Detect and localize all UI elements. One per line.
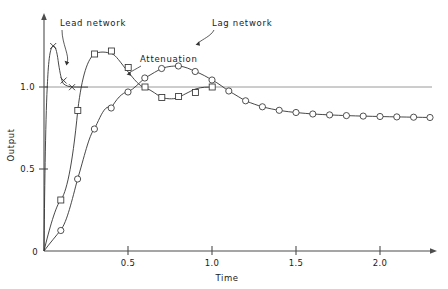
square-marker bbox=[209, 84, 215, 90]
circle-marker bbox=[58, 227, 64, 233]
circle-marker bbox=[360, 113, 366, 119]
circle-marker bbox=[125, 89, 131, 95]
square-marker bbox=[192, 90, 198, 96]
attenuation-markers bbox=[58, 48, 215, 203]
annotation-attenuation: Attenuation bbox=[127, 54, 198, 76]
x-axis-arrowhead bbox=[430, 248, 437, 254]
y-axis-title: Output bbox=[6, 128, 16, 161]
circle-marker bbox=[108, 105, 114, 111]
square-marker bbox=[75, 108, 81, 114]
step-response-chart: 1.0 0.5 0 0.5 1.0 1.5 2.0 Time Output bbox=[0, 0, 448, 289]
x-tick-label-0.5: 0.5 bbox=[121, 258, 136, 268]
lead-network-leader-arrowhead bbox=[65, 61, 70, 66]
circle-marker bbox=[159, 65, 165, 71]
lag-network-curve bbox=[44, 63, 433, 251]
x-tick-group: 0.5 1.0 1.5 2.0 bbox=[121, 246, 388, 268]
x-axis-title: Time bbox=[214, 273, 238, 283]
circle-marker bbox=[377, 113, 383, 119]
circle-marker bbox=[192, 68, 198, 74]
annotation-lead-network: Lead network bbox=[60, 18, 126, 66]
square-marker bbox=[142, 84, 148, 90]
x-tick-label-1.5: 1.5 bbox=[289, 258, 304, 268]
lag-network-leader-line bbox=[198, 30, 214, 43]
lead-network-annotation-label: Lead network bbox=[60, 18, 126, 28]
circle-marker bbox=[259, 104, 265, 110]
circle-marker bbox=[226, 88, 232, 94]
x-marker bbox=[50, 43, 56, 49]
attenuation-curve bbox=[44, 48, 215, 251]
square-marker bbox=[159, 95, 165, 101]
x-tick-label-2.0: 2.0 bbox=[373, 258, 388, 268]
circle-marker bbox=[427, 114, 433, 120]
axes-group bbox=[41, 13, 437, 254]
attenuation-annotation-label: Attenuation bbox=[140, 54, 198, 64]
circle-marker bbox=[293, 109, 299, 115]
lag-network-markers bbox=[58, 63, 433, 234]
circle-marker bbox=[75, 176, 81, 182]
square-marker bbox=[108, 48, 114, 54]
circle-marker bbox=[327, 112, 333, 118]
annotation-lag-network: Lag network bbox=[196, 18, 273, 46]
x-marker bbox=[61, 78, 67, 84]
circle-marker bbox=[209, 77, 215, 83]
circle-marker bbox=[394, 114, 400, 120]
attenuation-line bbox=[44, 52, 212, 251]
y-tick-label-1.0: 1.0 bbox=[20, 82, 35, 92]
circle-marker bbox=[142, 75, 148, 81]
y-tick-label-0: 0 bbox=[32, 247, 38, 257]
square-marker bbox=[58, 197, 64, 203]
circle-marker bbox=[411, 114, 417, 120]
square-marker bbox=[92, 51, 98, 57]
x-tick-label-1.0: 1.0 bbox=[205, 258, 220, 268]
circle-marker bbox=[243, 98, 249, 104]
y-tick-label-0.5: 0.5 bbox=[20, 164, 35, 174]
circle-marker bbox=[310, 111, 316, 117]
circle-marker bbox=[276, 107, 282, 113]
square-marker bbox=[125, 65, 131, 71]
lag-network-annotation-label: Lag network bbox=[212, 18, 272, 28]
y-axis-arrowhead bbox=[41, 13, 47, 20]
circle-marker bbox=[91, 126, 97, 132]
lead-network-leader-line bbox=[62, 30, 68, 63]
square-marker bbox=[176, 94, 182, 100]
lag-network-line bbox=[44, 66, 430, 251]
circle-marker bbox=[343, 113, 349, 119]
